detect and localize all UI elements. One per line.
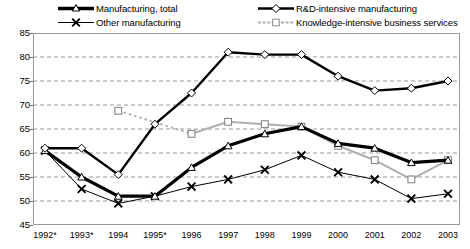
data-point-square-marker: [225, 118, 232, 125]
gridlines: [33, 57, 460, 201]
data-point-square-marker: [371, 157, 378, 164]
y-axis-tick-mark: [29, 225, 33, 226]
data-point-cross-marker: [188, 183, 196, 191]
x-axis-tick-label: 1999: [281, 230, 321, 240]
legend-swatch-triangle-icon: [58, 2, 94, 15]
y-axis-tick-label: 65: [0, 124, 30, 134]
data-point-diamond-marker: [407, 84, 415, 92]
x-axis-tick-label: 1994: [98, 230, 138, 240]
legend-item-rd-intensive-manufacturing: R&D-intensive manufacturing: [258, 2, 417, 15]
data-point-cross-marker: [78, 185, 86, 193]
x-axis-tick-label: 1997: [208, 230, 248, 240]
legend-swatch-cross-icon: [58, 16, 94, 29]
series-r-d-intensive-manufacturing: [41, 48, 452, 178]
y-axis-tick-label: 55: [0, 172, 30, 182]
legend-label: R&D-intensive manufacturing: [296, 4, 417, 14]
series-line: [45, 52, 448, 174]
y-axis-tick-label: 80: [0, 52, 30, 62]
legend-item-other-manufacturing: Other manufacturing: [58, 16, 181, 29]
legend-label: Knowledge-intensive business services: [296, 18, 458, 28]
data-point-square-marker: [408, 176, 415, 183]
legend-item-knowledge-intensive-business-services: Knowledge-intensive business services: [258, 16, 458, 29]
y-axis-tick-label: 45: [0, 220, 30, 230]
y-axis-tick-label: 70: [0, 100, 30, 110]
data-point-diamond-marker: [444, 77, 452, 85]
legend-label: Other manufacturing: [96, 18, 181, 28]
data-point-cross-marker: [261, 166, 269, 174]
chart-legend: Manufacturing, total Other manufacturing…: [0, 0, 470, 30]
series-layer: [41, 48, 452, 207]
data-point-diamond-marker: [371, 87, 379, 95]
legend-item-manufacturing-total: Manufacturing, total: [58, 2, 177, 15]
data-point-cross-marker: [334, 168, 342, 176]
y-axis-tick-label: 60: [0, 148, 30, 158]
x-axis-tick-label: 2001: [355, 230, 395, 240]
x-axis-tick-label: 1996: [172, 230, 212, 240]
series-line: [192, 122, 448, 180]
x-axis-tick-label: 1998: [245, 230, 285, 240]
series-knowledge-intensive-business-services: [115, 107, 452, 182]
legend-swatch-square-icon: [258, 16, 294, 29]
x-axis-tick-label: 2002: [391, 230, 431, 240]
data-point-cross-marker: [224, 176, 232, 184]
data-point-cross-marker: [371, 176, 379, 184]
x-axis-tick-label: 1993*: [62, 230, 102, 240]
x-axis-tick-label: 2000: [318, 230, 358, 240]
x-axis-tick-label: 1992*: [25, 230, 65, 240]
x-axis-tick-label: 2003: [428, 230, 468, 240]
data-point-square-marker: [115, 107, 122, 114]
legend-swatch-diamond-icon: [258, 2, 294, 15]
data-point-square-marker: [261, 121, 268, 128]
data-point-square-marker: [188, 130, 195, 137]
y-axis-tick-label: 85: [0, 28, 30, 38]
x-axis-tick-label: 1995*: [135, 230, 175, 240]
y-axis-tick-label: 50: [0, 196, 30, 206]
chart-plot-svg: [33, 33, 460, 225]
legend-label: Manufacturing, total: [96, 4, 177, 14]
chart-container: Manufacturing, total Other manufacturing…: [0, 0, 470, 249]
y-axis-tick-label: 75: [0, 76, 30, 86]
